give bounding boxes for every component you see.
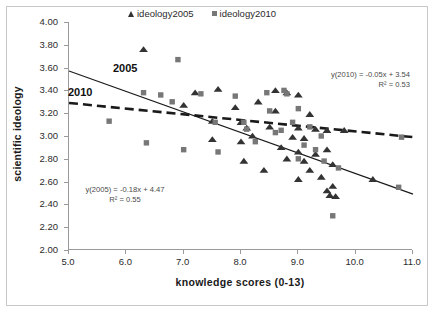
data-point	[328, 183, 337, 189]
data-point	[241, 120, 246, 125]
y-tick-label: 3.00	[18, 131, 58, 141]
y-tick-label: 3.20	[18, 108, 58, 118]
data-point	[264, 90, 269, 95]
legend-item-ideology2005: ideology2005	[128, 8, 194, 19]
data-point	[254, 99, 263, 105]
data-point	[198, 91, 203, 96]
x-axis-title: knowledge scores (0-13)	[68, 276, 412, 288]
x-tick-label: 8.0	[220, 256, 260, 267]
data-point	[213, 120, 218, 125]
trendline-label-2010: 2010	[68, 86, 92, 98]
data-point	[179, 102, 188, 108]
y-tick-label: 4.00	[18, 17, 58, 27]
data-point	[296, 156, 301, 161]
y-axis-title: scientific ideology	[11, 54, 23, 214]
y-tick-mark	[64, 159, 68, 160]
data-point	[317, 174, 326, 180]
x-tick-label: 6.0	[105, 256, 145, 267]
trendline-equation-2010: y(2010) = -0.05x + 3.54 R² = 0.53	[250, 70, 410, 89]
y-tick-label: 2.20	[18, 222, 58, 232]
data-point	[282, 156, 291, 162]
data-point	[277, 144, 286, 150]
x-tick-label: 10.0	[335, 256, 375, 267]
data-point	[181, 147, 186, 152]
data-point	[170, 99, 175, 104]
y-tick-label: 3.40	[18, 85, 58, 95]
data-point	[319, 133, 324, 138]
data-point	[330, 213, 335, 218]
y-tick-label: 2.80	[18, 154, 58, 164]
x-tick-mark	[297, 250, 298, 254]
data-point	[141, 90, 146, 95]
data-point	[294, 92, 303, 98]
data-point	[321, 158, 326, 163]
x-tick-mark	[412, 250, 413, 254]
data-point	[253, 139, 258, 144]
data-point	[267, 108, 272, 113]
equation-text-2005: y(2005) = -0.18x + 4.47	[45, 185, 205, 195]
data-point	[175, 57, 180, 62]
data-point	[290, 120, 295, 125]
data-point	[323, 146, 332, 152]
square-marker-icon	[212, 11, 217, 16]
data-point	[214, 86, 223, 92]
data-point	[305, 167, 314, 173]
y-tick-mark	[64, 45, 68, 46]
x-tick-label: 11.0	[392, 256, 432, 267]
x-tick-label: 7.0	[163, 256, 203, 267]
data-point	[260, 167, 269, 173]
data-point	[305, 111, 314, 117]
data-point	[237, 138, 246, 144]
data-point	[284, 91, 289, 96]
y-tick-mark	[64, 204, 68, 205]
data-point	[239, 158, 248, 164]
x-tick-mark	[183, 250, 184, 254]
x-tick-mark	[125, 250, 126, 254]
data-point	[139, 46, 148, 52]
data-point	[158, 92, 163, 97]
chart-legend: ideology2005 ideology2010	[128, 8, 276, 19]
y-tick-label: 3.60	[18, 63, 58, 73]
r2-text-2010: R² = 0.53	[250, 80, 410, 90]
data-point	[265, 124, 274, 130]
y-tick-mark	[64, 22, 68, 23]
y-tick-mark	[64, 68, 68, 69]
data-point	[278, 128, 283, 133]
r2-text-2005: R² = 0.55	[45, 195, 205, 205]
trendline-equation-2005: y(2005) = -0.18x + 4.47 R² = 0.55	[45, 185, 205, 204]
plot-canvas	[69, 22, 413, 250]
data-point	[273, 130, 278, 135]
data-point	[215, 149, 220, 154]
triangle-marker-icon	[128, 11, 134, 17]
data-point	[294, 176, 303, 182]
y-tick-label: 2.00	[18, 245, 58, 255]
x-tick-label: 5.0	[48, 256, 88, 267]
legend-label-ideology2005: ideology2005	[137, 8, 194, 19]
x-tick-mark	[240, 250, 241, 254]
y-tick-mark	[64, 182, 68, 183]
x-tick-label: 9.0	[277, 256, 317, 267]
y-tick-mark	[64, 113, 68, 114]
legend-label-ideology2010: ideology2010	[220, 8, 277, 19]
y-tick-mark	[64, 136, 68, 137]
data-point	[144, 140, 149, 145]
data-point	[244, 126, 249, 131]
data-point	[296, 106, 301, 111]
data-point	[336, 165, 341, 170]
data-point	[288, 134, 297, 140]
x-tick-mark	[355, 250, 356, 254]
data-point	[300, 135, 309, 141]
data-point	[313, 147, 318, 152]
trendline-label-2005: 2005	[113, 62, 137, 74]
data-point	[301, 142, 306, 147]
data-point	[307, 124, 312, 129]
y-tick-mark	[64, 227, 68, 228]
data-point	[106, 118, 111, 123]
trendline-2005	[69, 71, 413, 194]
equation-text-2010: y(2010) = -0.05x + 3.54	[250, 70, 410, 80]
y-tick-label: 3.80	[18, 40, 58, 50]
x-tick-mark	[68, 250, 69, 254]
data-point	[399, 134, 404, 139]
data-point	[396, 185, 401, 190]
plot-area	[68, 22, 412, 250]
